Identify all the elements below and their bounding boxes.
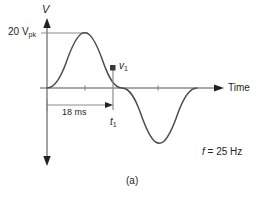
waveform-figure: V Time 20 Vpk v1 18 ms t1 f = 25 Hz (a) <box>0 0 273 197</box>
voltage-axis-up-arrowhead <box>43 18 50 28</box>
frequency-label: f = 25 Hz <box>202 147 242 157</box>
waveform-plot <box>0 0 273 197</box>
t1-label: t1 <box>110 117 117 127</box>
v1-subscript: 1 <box>124 65 128 72</box>
frequency-value: = 25 Hz <box>205 146 243 157</box>
time-measure-label: 18 ms <box>62 108 87 117</box>
figure-caption: (a) <box>126 176 138 186</box>
voltage-axis-down-arrowhead <box>43 156 50 166</box>
v1-point-marker <box>110 65 116 71</box>
v1-label: v1 <box>119 61 128 71</box>
voltage-axis-label: V <box>42 4 49 15</box>
peak-voltage-subscript: pk <box>29 31 36 38</box>
peak-voltage-label: 20 Vpk <box>8 27 36 37</box>
time-axis-label: Time <box>228 83 250 93</box>
dimension-arrowhead-18ms <box>105 102 113 108</box>
peak-voltage-value: 20 V <box>8 26 29 37</box>
time-axis-arrowhead <box>214 84 224 91</box>
t1-subscript: 1 <box>113 121 117 128</box>
